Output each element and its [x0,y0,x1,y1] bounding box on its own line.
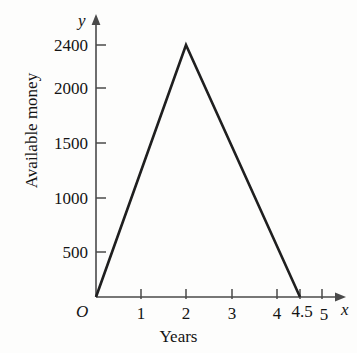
y-axis-title: Available money [23,56,40,206]
x-axis-title: Years [0,328,357,345]
y-tick-label-2400: 2400 [22,37,88,54]
x-tick-label-4point5: 4.5 [291,303,312,320]
origin-label: O [76,303,88,320]
y-axis-arrowhead [92,14,101,25]
x-tick-label-1: 1 [137,305,146,322]
x-tick-label-5: 5 [320,306,329,323]
x-tick-label-3: 3 [228,305,237,322]
x-axis-variable-label: x [341,301,349,318]
data-line-available-money [96,45,300,297]
y-axis-variable-label: y [78,12,86,29]
x-tick-label-4: 4 [273,305,282,322]
chart-figure: 2400 2000 1500 1000 500 1 2 3 4 4.5 5 O … [0,0,357,353]
x-tick-label-2: 2 [182,305,191,322]
y-tick-label-500: 500 [22,244,88,261]
